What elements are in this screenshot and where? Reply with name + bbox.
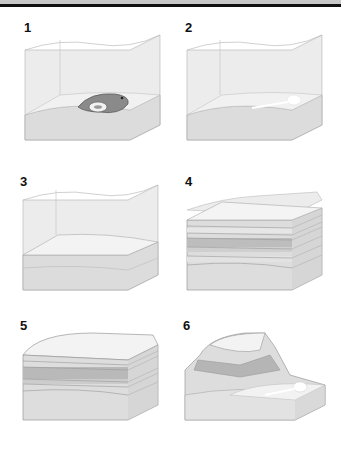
panel-1-illustration (20, 30, 165, 145)
panel-4-illustration (182, 180, 327, 295)
top-divider (0, 4, 341, 7)
panel-5-illustration (18, 325, 163, 425)
panel-3-illustration (18, 180, 163, 295)
panel-2-illustration (182, 30, 327, 145)
panel-6-illustration (180, 325, 330, 425)
